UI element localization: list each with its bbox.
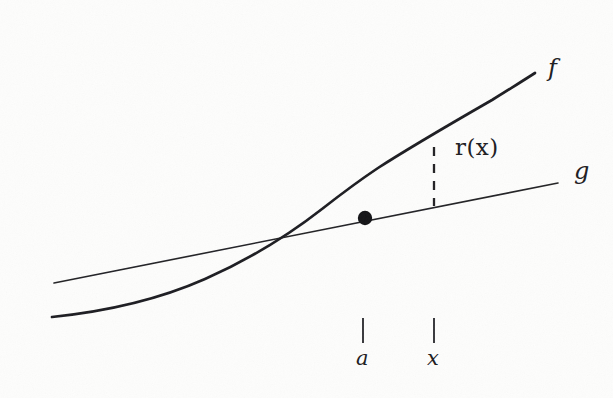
diagram-canvas [0,0,613,398]
line-g [54,183,558,283]
x-axis-tick-label-x: x [427,348,439,369]
x-axis-tick-label-a: a [356,348,369,369]
curve-f [52,73,535,317]
tangency-dot [358,211,372,225]
curve-f-label: f [548,56,557,80]
line-g-label: g [574,159,589,183]
figure-root: f g r(x) a x [0,0,613,398]
remainder-label: r(x) [455,136,499,159]
